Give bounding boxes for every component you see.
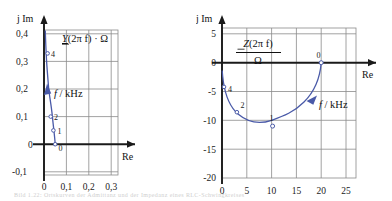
title-rest: (2π f) · Ω <box>68 33 108 45</box>
y-tick-label: -20 <box>203 173 216 183</box>
curve-label-tail: / kHz <box>322 99 348 110</box>
marker-label: 0 <box>317 51 321 60</box>
axis-re-impedance <box>212 59 376 66</box>
marker-point <box>49 115 53 119</box>
title-numerator-rest: (2π f) <box>249 38 273 50</box>
y-tick-label: 0 <box>211 58 216 68</box>
chart-impedance: j Im Re 5 0 -5 -10 -15 -20 0 5 10 15 20 … <box>196 0 392 201</box>
marker-point <box>52 129 56 133</box>
y-tick-label: 0,3 <box>16 57 28 67</box>
y-tick-label: -10 <box>203 116 216 126</box>
axis-label-re-impedance: Re <box>362 69 374 80</box>
y-tick-label: 0,4 <box>16 29 28 39</box>
axis-re-admittance <box>33 141 135 148</box>
x-tick-labels-admittance: 0 0,1 0,2 0,3 <box>42 182 118 192</box>
marker-label: 4 <box>228 85 232 94</box>
curve-label-impedance: f / kHz <box>319 99 348 110</box>
x-tick-label: 0,1 <box>60 182 72 192</box>
marker-label: 0 <box>59 144 63 153</box>
y-tick-label: 5 <box>211 29 216 39</box>
figure-caption: Bild 1.22: Ortskurven der Admittanz und … <box>14 192 384 198</box>
chart-title-impedance: Z(2π f) Ω <box>236 38 281 66</box>
curve-label-admittance: f / kHz <box>54 88 83 99</box>
grid-admittance <box>44 30 118 175</box>
axis-im-impedance <box>218 15 225 184</box>
marker-point <box>222 85 226 89</box>
marker-point <box>319 61 323 65</box>
chart-title-admittance: Y(2π f) · Ω <box>62 33 108 45</box>
y-tick-label: -0,1 <box>12 167 27 177</box>
x-tick-label: 0,3 <box>105 182 117 192</box>
y-tick-label: 0,1 <box>16 112 28 122</box>
figure-container: j Im Re 0,4 0,3 0,2 0,1 0 -0,1 0 0,1 0,2… <box>0 0 392 201</box>
axis-label-im-impedance: j Im <box>196 13 213 24</box>
y-tick-labels-admittance: 0,4 0,3 0,2 0,1 0 -0,1 <box>12 29 33 177</box>
y-tick-label: -5 <box>208 87 216 97</box>
svg-text:Z(2π f): Z(2π f) <box>243 38 273 50</box>
marker-label: 1 <box>58 127 62 136</box>
marker-labels-admittance: 0 1 2 4 <box>51 50 63 153</box>
axis-im-admittance <box>40 15 47 181</box>
title-denominator: Ω <box>254 55 262 66</box>
x-tick-label: 0,2 <box>83 182 95 192</box>
axis-label-re-admittance: Re <box>122 151 134 162</box>
marker-point <box>235 110 239 114</box>
y-tick-labels-impedance: 5 0 -5 -10 -15 -20 <box>203 29 216 183</box>
marker-label: 2 <box>241 101 245 110</box>
marker-label: 2 <box>54 113 58 122</box>
marker-label: 1 <box>270 114 274 123</box>
marker-label: 4 <box>51 50 55 59</box>
marker-labels-impedance: 0 1 2 4 <box>228 51 321 124</box>
marker-point <box>271 124 275 128</box>
y-tick-label: 0 <box>28 140 33 150</box>
x-tick-label: 0 <box>42 182 47 192</box>
axis-label-im-admittance: j Im <box>16 13 34 24</box>
svg-text:Y(2π f) · Ω: Y(2π f) · Ω <box>62 33 108 45</box>
marker-point <box>53 142 57 146</box>
y-tick-label: 0,2 <box>16 84 28 94</box>
chart-admittance: j Im Re 0,4 0,3 0,2 0,1 0 -0,1 0 0,1 0,2… <box>0 0 196 201</box>
curve-label-tail: / kHz <box>57 88 83 99</box>
y-tick-label: -15 <box>203 145 216 155</box>
marker-point <box>46 52 50 56</box>
